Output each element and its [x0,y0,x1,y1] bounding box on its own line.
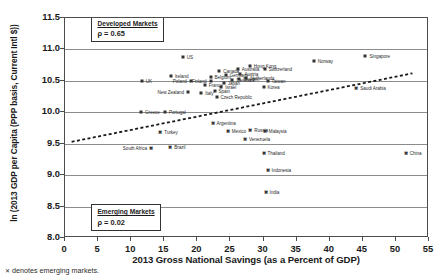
y-tick-mark [60,80,64,81]
chart-footnote: ✕ denotes emerging markets. [5,266,99,275]
data-point [220,86,223,89]
data-point [163,111,166,114]
y-tick-label: 10.5 [22,75,60,84]
y-tick-mark [60,143,64,144]
x-tick-mark [329,237,330,241]
x-tick-mark [163,237,164,241]
data-point: ✖ [265,168,270,173]
data-point: ✖ [168,145,173,150]
x-tick-mark [64,237,65,241]
data-point-label: Thailand [268,151,285,156]
data-point [213,89,216,92]
data-point-label: Korea [268,84,280,89]
x-axis-title: 2013 Gross National Savings (as a Percen… [64,254,428,265]
x-tick-mark [97,237,98,241]
data-point: ✖ [263,190,268,195]
y-tick-mark [60,17,64,18]
data-point-label: Portugal [169,110,186,115]
data-point: ✖ [262,129,267,134]
data-point [245,76,248,79]
data-point [312,59,315,62]
x-tick-label: 40 [314,243,344,254]
x-tick-mark [130,237,131,241]
y-tick-label: 8.5 [22,201,60,210]
x-tick-label: 5 [82,243,112,254]
x-tick-label: 35 [281,243,311,254]
data-point-label: Indonesia [272,168,291,173]
data-point [238,77,241,80]
data-point [200,91,203,94]
data-point: ✖ [403,151,408,156]
data-point-label: New Zealand [158,89,185,94]
data-point [262,85,265,88]
x-tick-label: 55 [413,243,435,254]
data-point [187,90,190,93]
data-point-label: Saudi Arabia [360,85,385,90]
x-tick-label: 20 [181,243,211,254]
data-point-label: India [270,190,280,195]
data-point [140,110,143,113]
plot-area: USIrelandUKPolandNew ZealandGreecePortug… [64,17,428,237]
x-tick-label: 30 [248,243,278,254]
data-point-label: Switzerland [269,66,292,71]
data-point [203,83,206,86]
emerging-marker-icon: ✕ [5,268,10,274]
x-tick-label: 0 [49,243,79,254]
x-tick-mark [428,237,429,241]
x-tick-label: 15 [148,243,178,254]
y-tick-label: 9.5 [22,138,60,147]
data-point-label: Singapore [369,53,390,58]
x-tick-label: 25 [214,243,244,254]
data-point-label: US [187,54,193,59]
data-point-label: Norway [318,58,333,63]
data-point [215,96,218,99]
data-point: ✖ [248,127,253,132]
annotation-title: Emerging Markets [97,208,154,216]
data-point-label: Venezuela [249,136,270,141]
y-tick-label: 11.0 [22,43,60,52]
chart-figure: ln (2013 GDP per Capita (PPP basis, Curr… [0,0,435,279]
x-tick-mark [395,237,396,241]
data-point: ✖ [261,151,266,156]
data-point [209,79,212,82]
y-tick-label: 8.0 [22,232,60,241]
data-point [218,69,221,72]
data-point [231,79,234,82]
x-tick-mark [196,237,197,241]
data-point-label: China [410,151,422,156]
data-point-label: UK [146,78,152,83]
annotation-title: Developed Markets [97,20,157,28]
data-point-label: Mexico [232,129,246,134]
y-tick-mark [60,48,64,49]
data-point: ✖ [243,136,248,141]
data-point [209,76,212,79]
y-tick-label: 10.0 [22,106,60,115]
x-tick-mark [229,237,230,241]
annotation-rho: ρ = 0.02 [97,218,154,227]
x-tick-mark [296,237,297,241]
x-tick-label: 10 [115,243,145,254]
data-point-label: Greece [145,109,160,114]
data-point [222,82,225,85]
data-point: ✖ [158,129,163,134]
y-tick-mark [60,206,64,207]
data-point-label: South Africa [123,146,147,151]
data-point [266,80,269,83]
y-tick-mark [60,111,64,112]
data-point-label: Poland [173,79,187,84]
data-point-label: Brazil [174,145,185,150]
data-point: ✖ [225,129,230,134]
data-point [263,67,266,70]
data-point [169,75,172,78]
data-point [364,54,367,57]
y-tick-label: 11.5 [22,12,60,21]
y-tick-mark [60,174,64,175]
data-point: ✖ [354,85,359,90]
data-point: ✖ [149,146,154,151]
data-point: ✖ [210,120,215,125]
data-point-label: Finland [192,78,207,83]
x-tick-mark [362,237,363,241]
data-point-label: Argentina [217,120,236,125]
x-tick-mark [263,237,264,241]
annotation-rho: ρ = 0.65 [97,29,157,38]
